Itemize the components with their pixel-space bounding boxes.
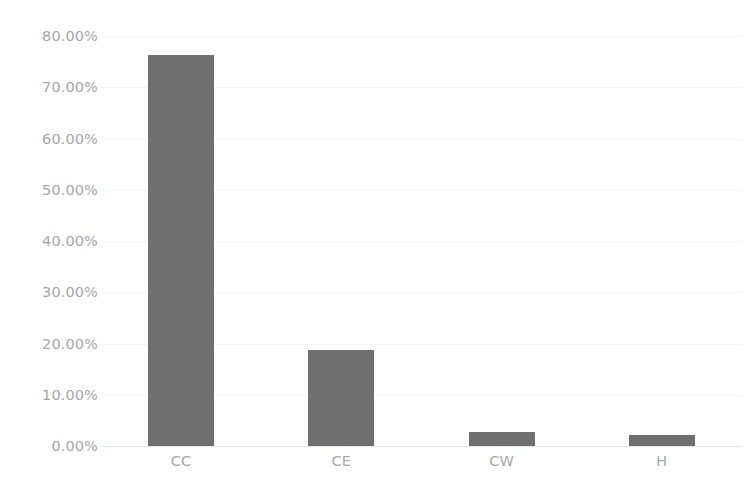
x-tick-label-ce: CE [261,452,421,471]
bar-cw[interactable] [469,432,535,446]
x-tick-label-cw: CW [422,452,582,471]
bar-slot [469,36,535,446]
x-axis: CCCECWH [101,452,742,482]
y-tick-label: 60.00% [2,132,98,147]
bar-slot [148,36,214,446]
bar-cc[interactable] [148,55,214,446]
gridline [101,446,742,447]
y-tick-label: 50.00% [2,183,98,198]
y-tick-label: 70.00% [2,80,98,95]
y-tick-label: 20.00% [2,337,98,352]
bar-slot [629,36,695,446]
y-tick-label: 10.00% [2,388,98,403]
y-tick-label: 80.00% [2,29,98,44]
bar-h[interactable] [629,435,695,446]
bars-layer [101,36,742,446]
y-axis: 0.00%10.00%20.00%30.00%40.00%50.00%60.00… [0,0,98,504]
y-tick-label: 40.00% [2,234,98,249]
bar-ce[interactable] [308,350,374,446]
bar-slot [308,36,374,446]
y-tick-label: 30.00% [2,285,98,300]
y-tick-label: 0.00% [2,439,98,454]
x-tick-label-h: H [582,452,742,471]
bar-chart: 0.00%10.00%20.00%30.00%40.00%50.00%60.00… [0,0,750,504]
x-tick-label-cc: CC [101,452,261,471]
